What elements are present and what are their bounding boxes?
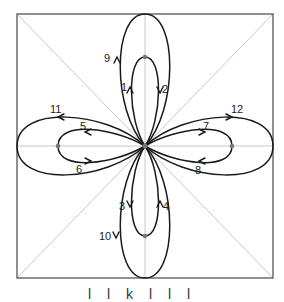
label-12: 12 [231,103,243,115]
left-dot [56,144,61,149]
label-8: 8 [195,164,201,176]
center-dot [143,144,148,149]
label-7: 7 [203,120,209,132]
arrow-10-down-icon [113,232,119,238]
caption-text-cropped: l l k l l l [0,286,284,302]
label-4: 4 [163,200,169,212]
label-5: 5 [80,120,86,132]
bottom-dot [143,234,148,239]
label-1: 1 [121,81,127,93]
label-3: 3 [119,200,125,212]
label-6: 6 [76,163,82,175]
label-11: 11 [50,103,61,115]
label-10: 10 [99,230,111,242]
top-dot [143,55,148,60]
arrow-9-up-icon [114,57,120,63]
label-9: 9 [104,52,110,64]
right-dot [230,144,235,149]
label-2: 2 [162,83,168,95]
